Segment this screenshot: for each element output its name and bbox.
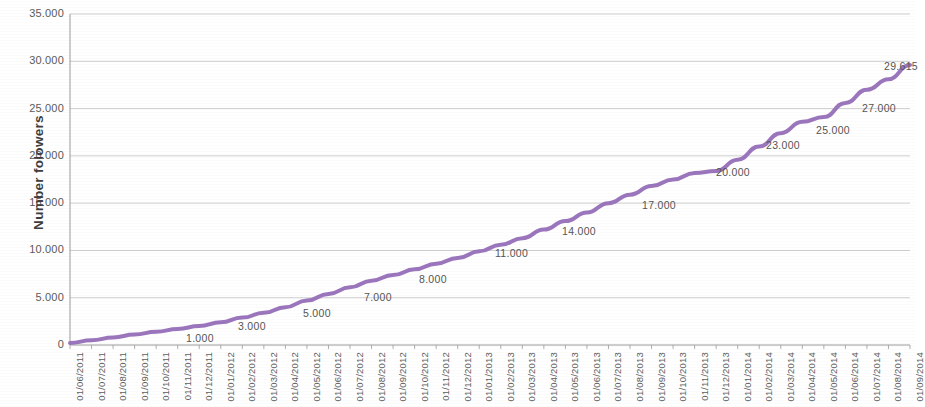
y-axis-title: Number folowers xyxy=(31,83,46,263)
data-point-label: 7.000 xyxy=(364,291,392,303)
data-point-label: 29.615 xyxy=(884,60,918,72)
data-point-label: 3.000 xyxy=(238,320,266,332)
data-point-label: 1.000 xyxy=(186,332,214,344)
data-point-label: 5.000 xyxy=(303,307,331,319)
data-point-label: 27.000 xyxy=(862,102,896,114)
data-point-label: 14.000 xyxy=(562,225,596,237)
data-point-label: 8.000 xyxy=(419,273,447,285)
data-point-label: 17.000 xyxy=(642,199,676,211)
data-point-label: 20.000 xyxy=(716,166,750,178)
data-point-label: 25.000 xyxy=(816,124,850,136)
data-point-label: 11.000 xyxy=(495,247,528,259)
data-point-label: 23.000 xyxy=(766,139,800,151)
